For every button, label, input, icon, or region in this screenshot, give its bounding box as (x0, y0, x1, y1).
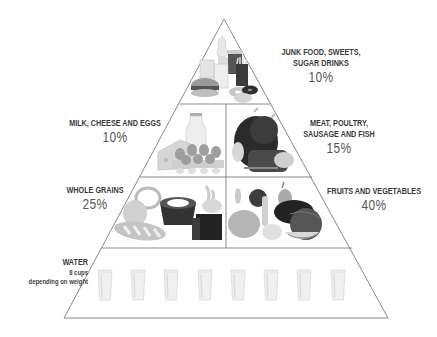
tier-water-label: WATER 8 cups depending on weight (13, 257, 88, 286)
grains-title: WHOLE GRAINS (66, 185, 123, 195)
fruits-title: FRUITS AND VEGETABLES (327, 186, 421, 196)
junk-percent: 10% (274, 69, 368, 86)
meat-title-line1: MEAT, POULTRY, (310, 118, 368, 128)
water-glasses (98, 270, 345, 300)
junk-food-illustration (191, 36, 258, 103)
tier-junk-label: JUNK FOOD, SWEETS, SUGAR DRINKS 10% (274, 47, 368, 86)
fruits-vegetables-illustration (228, 182, 322, 240)
tier-grains-label: WHOLE GRAINS 25% (57, 185, 134, 213)
grains-percent: 25% (57, 196, 134, 213)
milk-percent: 10% (64, 129, 166, 146)
water-title: WATER (62, 257, 88, 267)
meat-percent: 15% (292, 140, 386, 157)
food-pyramid (0, 0, 437, 337)
tier-milk-label: MILK, CHEESE AND EGGS 10% (64, 118, 166, 146)
fruits-percent: 40% (323, 197, 425, 214)
water-note: depending on weight (13, 277, 88, 286)
tier-meat-label: MEAT, POULTRY, SAUSAGE AND FISH 15% (292, 118, 386, 157)
tier-fruits-label: FRUITS AND VEGETABLES 40% (323, 186, 425, 214)
junk-title-line2: SUGAR DRINKS (293, 58, 349, 68)
meat-poultry-fish-illustration (232, 108, 294, 172)
milk-cheese-eggs-illustration (158, 113, 224, 174)
junk-title-line1: JUNK FOOD, SWEETS, (281, 47, 360, 57)
meat-title-line2: SAUSAGE AND FISH (303, 129, 375, 139)
milk-title: MILK, CHEESE AND EGGS (69, 118, 161, 128)
water-amount: 8 cups (13, 268, 88, 277)
